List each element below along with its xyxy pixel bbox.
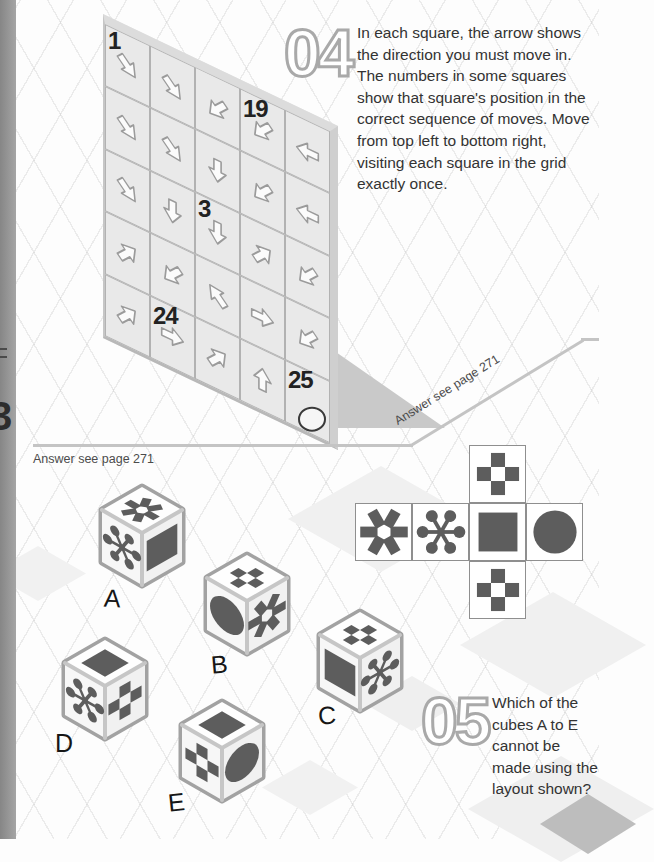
net-cell-solid-square bbox=[469, 503, 526, 561]
end-circle-marker bbox=[298, 407, 326, 432]
answer-note-horizontal: Answer see page 271 bbox=[33, 452, 154, 466]
puzzle-05-number: 05 bbox=[421, 688, 488, 754]
puzzle-04-number: 04 bbox=[284, 20, 351, 86]
direction-arrow-ne bbox=[114, 233, 141, 273]
sequence-number: 24 bbox=[153, 302, 178, 328]
solid-circle-icon bbox=[528, 505, 582, 559]
die-label-A: A bbox=[103, 584, 121, 614]
edge-mark bbox=[0, 348, 7, 350]
edge-mark bbox=[0, 356, 7, 358]
checkered-plus-icon bbox=[471, 563, 525, 617]
direction-arrow-w bbox=[294, 132, 321, 172]
divider-line bbox=[33, 444, 413, 447]
direction-arrow-se bbox=[114, 171, 141, 211]
direction-arrow-s bbox=[159, 192, 186, 232]
direction-arrow-nw bbox=[204, 276, 231, 316]
direction-arrow-se bbox=[114, 108, 141, 148]
direction-arrow-sw bbox=[294, 319, 321, 359]
die-label-D: D bbox=[55, 729, 73, 758]
six-dot-snowflake-icon bbox=[414, 505, 468, 559]
die-A bbox=[94, 478, 190, 594]
net-cell-solid-circle bbox=[526, 503, 583, 561]
direction-arrow-sw bbox=[204, 89, 231, 129]
sequence-number: 25 bbox=[288, 367, 313, 393]
checkered-plus-icon bbox=[471, 447, 525, 501]
direction-arrow-e bbox=[249, 297, 276, 337]
page-edge-number: 3 bbox=[0, 394, 12, 439]
sequence-number: 3 bbox=[198, 196, 210, 222]
six-blade-asterisk-icon bbox=[357, 505, 411, 559]
direction-arrow-ne bbox=[249, 235, 276, 275]
net-cell-checkered-plus bbox=[469, 445, 526, 503]
solid-square-icon bbox=[471, 505, 525, 559]
direction-arrow-ne bbox=[114, 295, 141, 335]
direction-arrow-sw bbox=[294, 257, 321, 297]
direction-arrow-w bbox=[294, 194, 321, 234]
direction-arrow-sw bbox=[159, 255, 186, 295]
die-B bbox=[199, 546, 295, 662]
die-label-B: B bbox=[210, 649, 229, 679]
page-edge-bar: 3 bbox=[0, 0, 16, 839]
puzzle-05-question: Which of the cubes A to E cannot be made… bbox=[492, 692, 602, 800]
sequence-number: 19 bbox=[243, 96, 268, 122]
direction-arrow-ne bbox=[204, 338, 231, 378]
net-cell-checkered-plus bbox=[469, 561, 526, 619]
die-label-C: C bbox=[317, 701, 337, 731]
die-E bbox=[174, 693, 270, 809]
die-label-E: E bbox=[167, 787, 187, 818]
direction-arrow-sw bbox=[249, 173, 276, 213]
net-cell-six-blade-asterisk bbox=[355, 503, 412, 561]
sequence-number: 1 bbox=[108, 28, 120, 54]
direction-arrow-se bbox=[159, 67, 186, 107]
puzzle-04-description: In each square, the arrow shows the dire… bbox=[357, 22, 595, 195]
net-cell-six-dot-snowflake bbox=[412, 503, 469, 561]
direction-arrow-se bbox=[159, 130, 186, 170]
direction-arrow-n bbox=[249, 360, 276, 400]
direction-arrow-s bbox=[204, 151, 231, 191]
divider-line bbox=[581, 338, 599, 341]
